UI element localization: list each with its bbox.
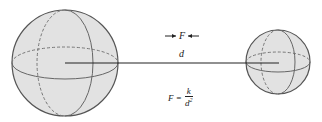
distance-label: d	[179, 49, 184, 59]
formula: F = k d2	[168, 87, 193, 109]
formula-fraction: k d2	[185, 87, 193, 109]
formula-denominator: d2	[185, 97, 193, 109]
formula-lhs: F =	[168, 93, 182, 103]
small-sphere	[246, 30, 310, 94]
formula-exponent: 2	[190, 97, 193, 103]
formula-numerator: k	[185, 87, 193, 97]
force-label: F	[179, 31, 185, 41]
diagram-canvas	[0, 0, 322, 122]
